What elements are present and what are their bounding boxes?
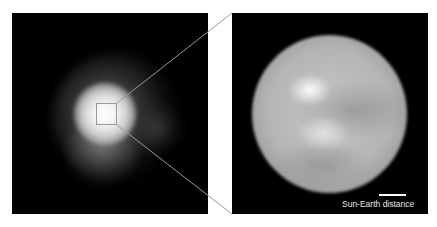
stellar-disk	[252, 35, 407, 193]
zoomed-image-panel: Sun-Earth distance	[232, 13, 428, 214]
zoom-region-box	[96, 103, 117, 125]
right-lobe	[127, 103, 187, 153]
wide-field-image-panel	[12, 13, 208, 214]
scale-bar-label: Sun-Earth distance	[342, 199, 414, 209]
scale-bar	[379, 194, 406, 196]
